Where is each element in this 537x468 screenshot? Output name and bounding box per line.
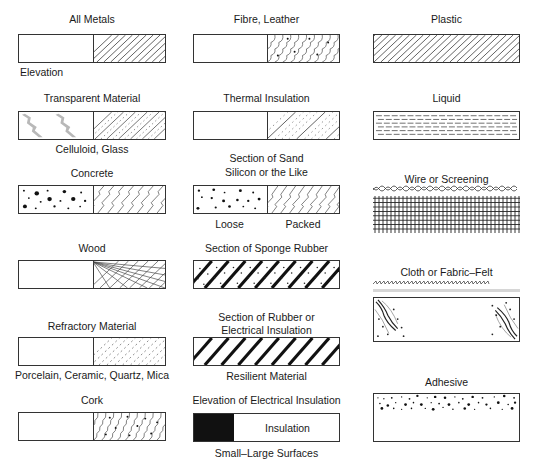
fibre-leather-symbol bbox=[193, 34, 340, 63]
cork-pattern-icon bbox=[19, 413, 165, 440]
wire-screening-title: Wire or Screening bbox=[373, 173, 520, 185]
wood-symbol bbox=[18, 260, 166, 289]
cork-symbol bbox=[18, 412, 166, 441]
sand-caption-loose: Loose bbox=[193, 218, 266, 230]
thermal-insulation-title: Thermal Insulation bbox=[193, 92, 340, 104]
sponge-rubber-symbol bbox=[193, 260, 340, 289]
liquid-title: Liquid bbox=[373, 92, 520, 104]
concrete-symbol bbox=[18, 185, 166, 214]
cork-title: Cork bbox=[18, 394, 166, 406]
wood-grain-icon bbox=[19, 261, 165, 288]
liquid-symbol bbox=[373, 111, 520, 140]
cloth-fibres-icon bbox=[374, 298, 519, 341]
concrete-pattern-icon bbox=[19, 186, 165, 213]
sand-pattern-icon bbox=[194, 186, 339, 213]
liquid-dashes-icon bbox=[374, 112, 519, 139]
adhesive-dots-icon bbox=[374, 394, 519, 441]
plastic-title: Plastic bbox=[373, 13, 520, 25]
all-metals-caption: Elevation bbox=[20, 66, 63, 78]
cloth-felt-symbol bbox=[373, 297, 520, 342]
sand-title-line2: Silicon or the Like bbox=[193, 166, 340, 178]
sand-title-line1: Section of Sand bbox=[193, 152, 340, 164]
adhesive-symbol bbox=[373, 393, 520, 442]
rubber-title-line2: Electrical Insulation bbox=[193, 324, 340, 336]
electrical-insulation-symbol: Insulation bbox=[193, 413, 340, 442]
concrete-title: Concrete bbox=[18, 167, 166, 179]
felt-stitch-icon bbox=[373, 279, 520, 295]
rubber-symbol bbox=[193, 337, 340, 366]
transparent-material-symbol bbox=[18, 111, 166, 140]
metal-hatch-icon bbox=[19, 35, 165, 62]
sponge-rubber-pattern-icon bbox=[194, 261, 339, 288]
cloth-felt-title: Cloth or Fabric–Felt bbox=[373, 266, 520, 278]
rubber-title-line1: Section of Rubber or bbox=[193, 311, 340, 323]
transparent-material-caption: Celluloid, Glass bbox=[18, 143, 166, 155]
wire-grid-icon bbox=[373, 196, 520, 233]
all-metals-symbol bbox=[18, 34, 166, 63]
transparent-pattern-icon bbox=[19, 112, 165, 139]
wood-title: Wood bbox=[18, 242, 166, 254]
adhesive-title: Adhesive bbox=[373, 376, 520, 388]
rubber-caption: Resilient Material bbox=[193, 370, 340, 382]
refractory-material-title: Refractory Material bbox=[18, 320, 166, 332]
fibre-leather-title: Fibre, Leather bbox=[193, 13, 340, 25]
insulation-black-block bbox=[194, 414, 234, 441]
transparent-material-title: Transparent Material bbox=[18, 92, 166, 104]
wire-wave-icon bbox=[373, 185, 520, 192]
thermal-insulation-symbol bbox=[193, 111, 340, 140]
plastic-hatch-icon bbox=[374, 35, 519, 62]
rubber-pattern-icon bbox=[194, 338, 339, 365]
fibre-pattern-icon bbox=[194, 35, 339, 62]
insulation-inner-label: Insulation bbox=[234, 422, 340, 434]
all-metals-title: All Metals bbox=[18, 13, 166, 25]
plastic-symbol bbox=[373, 34, 520, 63]
sand-caption-packed: Packed bbox=[266, 218, 340, 230]
wire-grid-symbol bbox=[373, 196, 520, 233]
electrical-insulation-title: Elevation of Electrical Insulation bbox=[185, 394, 348, 406]
sand-symbol bbox=[193, 185, 340, 214]
sponge-rubber-title: Section of Sponge Rubber bbox=[193, 242, 340, 254]
thermal-pattern-icon bbox=[194, 112, 339, 139]
electrical-insulation-caption: Small–Large Surfaces bbox=[193, 447, 340, 459]
refractory-material-symbol bbox=[18, 337, 166, 366]
refractory-pattern-icon bbox=[19, 338, 165, 365]
refractory-material-caption: Porcelain, Ceramic, Quartz, Mica bbox=[4, 369, 180, 381]
